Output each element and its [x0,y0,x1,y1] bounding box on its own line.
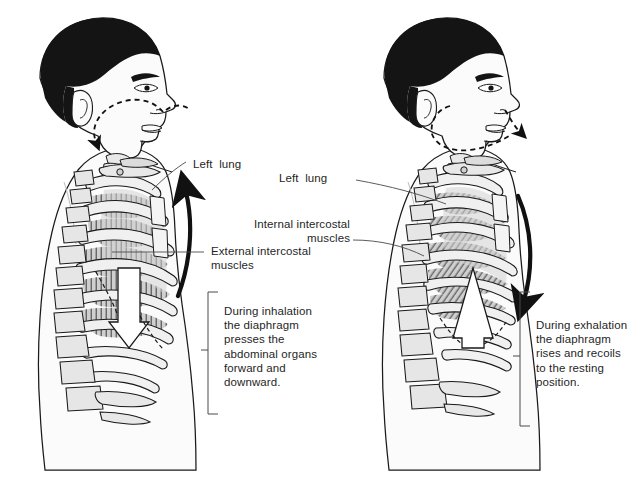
figure-exhalation [353,18,540,470]
rib-up-arrow [178,192,190,296]
label-left-lung-inhalation: Left lung [193,158,241,172]
caption-exhalation: During exhalation the diaphragm rises an… [536,318,636,389]
figure-inhalation [39,18,219,470]
caption-inhalation: During inhalation the diaphragm presses … [224,304,329,389]
label-left-lung-exhalation: Left lung [279,172,327,186]
label-internal-intercostal-muscles: Internal intercostal muscles [224,218,350,245]
diagram-canvas: Left lung External intercostal muscles D… [0,0,638,479]
label-external-intercostal-muscles: External intercostal muscles [211,245,311,272]
